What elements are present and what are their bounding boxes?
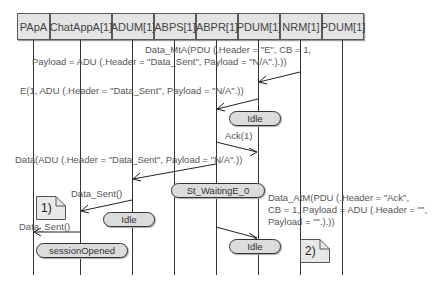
note-1[interactable]: 1) <box>36 196 66 220</box>
state-waiting[interactable]: St_WaitingE_0 <box>171 183 265 198</box>
message-data-sent-chatapp[interactable]: Data_Sent() <box>19 221 70 233</box>
message-data-mta-line2[interactable]: Payload = ADU (.Header = "Data_Sent", Pa… <box>32 56 287 68</box>
message-e[interactable]: E(1, ADU (.Header = "Data_Sent", Payload… <box>20 85 244 97</box>
message-data[interactable]: Data(ADU (.Header = "Data_Sent", Payload… <box>15 154 242 166</box>
state-session-opened[interactable]: sessionOpened <box>36 243 128 258</box>
note-label: 2) <box>305 244 316 258</box>
message-data-sent-adum[interactable]: Data_Sent() <box>71 188 122 200</box>
message-data-atm[interactable]: Data_AtM(PDU (.Header = "Ack", CB = 1, P… <box>268 192 427 228</box>
state-idle-abpr[interactable]: Idle <box>229 239 281 254</box>
state-idle-pdum[interactable]: Idle <box>229 111 281 126</box>
message-line: Data_AtM(PDU (.Header = "Ack", <box>268 192 427 204</box>
message-line: Payload = "".).)) <box>268 216 427 228</box>
message-ack[interactable]: Ack(1) <box>225 130 252 142</box>
message-data-mta[interactable]: Data_MtA(PDU (.Header = "E", CB = 1, <box>118 44 338 56</box>
state-idle-adum[interactable]: Idle <box>103 212 155 227</box>
note-label: 1) <box>41 201 52 215</box>
note-2[interactable]: 2) <box>300 239 330 263</box>
message-line: Data_MtA(PDU (.Header = "E", CB = 1, <box>118 44 338 56</box>
message-line: CB = 1, Payload = ADU (.Header = "", <box>268 204 427 216</box>
